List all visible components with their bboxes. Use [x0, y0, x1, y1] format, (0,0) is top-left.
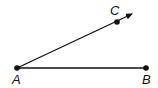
angle-diagram: A B C	[0, 0, 158, 88]
label-b: B	[142, 72, 151, 87]
point-b	[143, 65, 149, 71]
point-c	[114, 19, 120, 25]
point-a	[14, 65, 20, 71]
label-c: C	[110, 3, 120, 18]
label-a: A	[11, 72, 21, 87]
